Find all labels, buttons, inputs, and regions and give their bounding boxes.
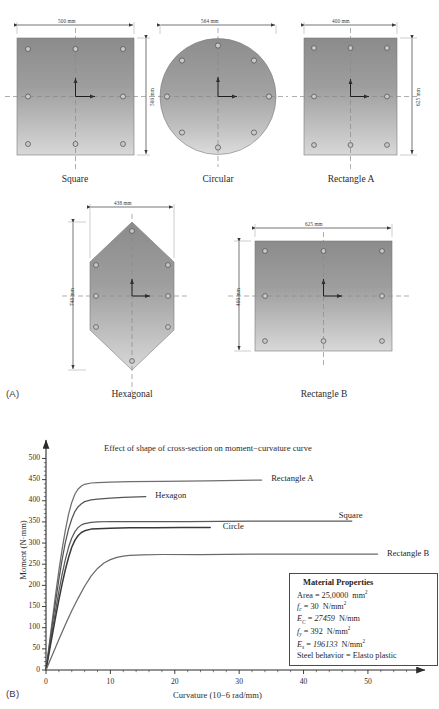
curve-rectangle-a [46, 480, 262, 670]
y-tick-label: 150 [0, 601, 40, 610]
material-property-row: fy = 392 N/mm2 [297, 625, 431, 638]
y-tick-label: 400 [0, 495, 40, 504]
figure-root: 500 mm 500 mm 564 mm 400 mm 625 mm 438 m… [0, 0, 439, 709]
x-tick-label: 10 [96, 677, 124, 686]
material-property-row: Es = 196133 N/mm2 [297, 638, 431, 651]
section-circular [150, 25, 288, 167]
section-rectangle-b [228, 224, 412, 368]
caption-rectangle-b: Rectangle B [279, 389, 369, 399]
y-tick-label: 450 [0, 474, 40, 483]
dim-circular-width: 564 mm [201, 18, 219, 24]
section-rectangle-a [292, 22, 420, 170]
x-tick-label: 50 [354, 677, 382, 686]
material-property-row: EC = 27459 N/mm [297, 614, 431, 625]
x-tick-label: 40 [290, 677, 318, 686]
dim-rectangle-b-width: 625 mm [305, 221, 323, 227]
caption-rectangle-a: Rectangle A [306, 174, 396, 184]
cross-sections-panel [0, 0, 439, 410]
material-properties-box: Material Properties Area = 25,0000 mm2fc… [289, 573, 438, 666]
section-hexagonal [62, 204, 190, 392]
dim-rectangle-a-width: 400 mm [332, 18, 350, 24]
y-tick-label: 50 [0, 643, 40, 652]
x-tick-label: 20 [161, 677, 189, 686]
steel-behavior-row: Steel behavior = Elasto plastic [297, 651, 431, 661]
curve-label-rectangle-a: Rectangle A [271, 473, 313, 483]
curve-label-hexagon: Hexagon [155, 490, 186, 500]
dim-square-width: 500 mm [58, 18, 76, 24]
curve-label-circle: Circle [223, 521, 244, 531]
section-square [5, 22, 150, 170]
caption-circular: Circular [173, 174, 263, 184]
chart-title: Effect of shape of cross-section on mome… [104, 443, 312, 453]
panel-a-tag: (A) [6, 388, 19, 399]
y-tick-label: 300 [0, 538, 40, 547]
y-tick-label: 500 [0, 453, 40, 462]
y-tick-label: 100 [0, 622, 40, 631]
dim-rectangle-a-height: 625 mm [415, 77, 421, 117]
x-tick-label: 30 [225, 677, 253, 686]
caption-square: Square [30, 174, 120, 184]
material-properties-heading: Material Properties [303, 578, 431, 588]
material-properties-rows: Area = 25,0000 mm2fc = 30 N/mm2EC = 2745… [297, 589, 431, 652]
dim-hexagonal-height: 748 mm [69, 277, 75, 317]
y-axis-label-text: Moment (N·mm) [18, 520, 28, 579]
curve-circle [46, 527, 210, 670]
caption-hexagonal: Hexagonal [87, 389, 177, 399]
x-axis-label-text: Curvature (10−6 rad/mm) [173, 690, 262, 700]
material-property-row: fc = 30 N/mm2 [297, 600, 431, 613]
material-property-row: Area = 25,0000 mm2 [297, 589, 431, 601]
y-tick-label: 250 [0, 559, 40, 568]
curve-label-rectangle-b: Rectangle B [387, 548, 429, 558]
curve-label-square: Square [339, 510, 363, 520]
y-tick-label: 350 [0, 516, 40, 525]
dim-square-height: 500 mm [149, 77, 155, 117]
dim-hexagonal-width: 438 mm [114, 200, 132, 206]
y-tick-label: 0 [0, 665, 40, 674]
panel-b-tag: (B) [6, 688, 19, 699]
x-tick-label: 0 [32, 677, 60, 686]
dim-rectangle-b-height: 400 mm [235, 277, 241, 317]
x-axis-label: Curvature (10−6 rad/mm) [173, 690, 262, 700]
y-tick-label: 200 [0, 580, 40, 589]
